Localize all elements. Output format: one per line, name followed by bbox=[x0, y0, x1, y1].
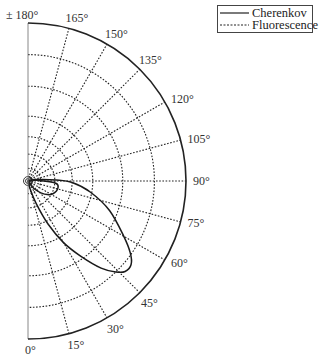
polar-chart: 0°15°30°45°60°75°90°105°120°135°150°165°… bbox=[0, 0, 320, 360]
angle-label: ± 180° bbox=[6, 8, 39, 22]
grid-spoke bbox=[28, 28, 69, 181]
angle-label: 75° bbox=[187, 216, 204, 230]
grid-spoke bbox=[28, 69, 140, 181]
angle-label: 135° bbox=[139, 53, 162, 67]
angle-label: 45° bbox=[141, 296, 158, 310]
angle-tick-labels: 0°15°30°45°60°75°90°105°120°135°150°165°… bbox=[6, 8, 210, 357]
grid-spoke bbox=[28, 140, 181, 181]
grid-spoke bbox=[28, 102, 165, 181]
angle-label: 105° bbox=[187, 132, 210, 146]
angle-label: 30° bbox=[107, 322, 124, 336]
grid-spoke bbox=[28, 181, 140, 293]
polar-grid bbox=[28, 28, 186, 333]
legend-label-fluorescence: Fluorescence bbox=[252, 18, 318, 32]
grid-spoke bbox=[28, 181, 69, 334]
legend: Cherenkov Fluorescence bbox=[218, 6, 319, 33]
angle-label: 15° bbox=[67, 338, 84, 352]
angle-label: 150° bbox=[105, 27, 128, 41]
grid-spoke bbox=[28, 181, 165, 260]
angle-label: 120° bbox=[171, 92, 194, 106]
angle-label: 165° bbox=[65, 11, 88, 25]
angle-label: 90° bbox=[193, 174, 210, 188]
grid-spoke bbox=[28, 181, 181, 222]
angle-label: 60° bbox=[171, 256, 188, 270]
angle-label: 0° bbox=[25, 343, 36, 357]
